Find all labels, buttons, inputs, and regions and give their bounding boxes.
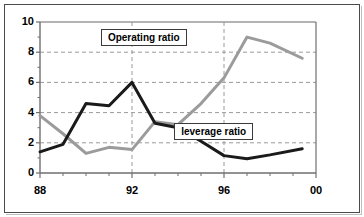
x-tick-label: 88 [25,185,55,196]
y-tick-label: 0 [10,167,34,178]
leverage-ratio-annotation: leverage ratio [174,123,253,140]
x-axis-ticks [40,173,316,178]
x-tick-label: 92 [117,185,147,196]
y-tick-label: 2 [10,137,34,148]
y-tick-label: 4 [10,107,34,118]
y-tick-label: 10 [10,16,34,27]
x-tick-label: 00 [301,185,331,196]
chart-figure: 1086420 88929600 Operating ratio leverag… [0,0,364,217]
y-tick-label: 6 [10,76,34,87]
operating-ratio-annotation: Operating ratio [101,29,187,46]
y-tick-label: 8 [10,46,34,57]
x-tick-label: 96 [209,185,239,196]
